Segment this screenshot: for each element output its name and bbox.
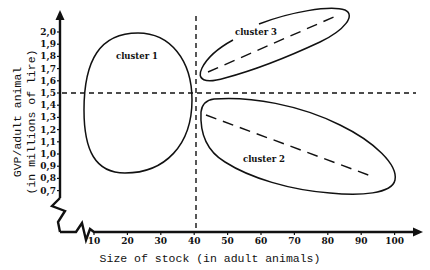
- x-tick-label: 10: [88, 236, 101, 246]
- cluster-3: cluster 3: [200, 8, 349, 80]
- y-tick-label: 1,2: [40, 125, 56, 136]
- y-axis-arrow-icon: [56, 10, 65, 20]
- y-ticks: 0,70,80,91,01,11,21,31,41,51,61,71,81,92…: [40, 27, 60, 197]
- cluster-1: cluster 1: [84, 33, 192, 173]
- x-ticks: 102030405060708090100: [88, 232, 404, 246]
- cluster-2-label: cluster 2: [243, 154, 285, 164]
- y-tick-label: 1,7: [40, 64, 56, 75]
- y-axis-title: GVP/adult animal: [11, 67, 24, 178]
- y-tick-label: 0,8: [40, 173, 56, 184]
- y-tick-label: 1,5: [40, 88, 56, 99]
- y-tick-label: 1,4: [40, 100, 56, 111]
- y-tick-label: 2,0: [40, 27, 56, 38]
- x-axis-title: Size of stock (in adult animals): [100, 252, 321, 265]
- y-axis-subtitle: (in millions of lire): [25, 50, 38, 195]
- y-tick-label: 1,6: [40, 76, 56, 87]
- y-tick-label: 1,1: [40, 137, 56, 148]
- chart-canvas: 0,70,80,91,01,11,21,31,41,51,61,71,81,92…: [0, 0, 430, 270]
- y-axis-break-icon: [52, 198, 65, 232]
- y-tick-label: 0,9: [40, 161, 56, 172]
- x-tick-label: 70: [288, 236, 301, 246]
- x-tick-label: 30: [155, 236, 168, 246]
- x-tick-label: 40: [188, 236, 201, 246]
- y-tick-label: 1,3: [40, 112, 56, 123]
- cluster-3-label: cluster 3: [235, 27, 277, 37]
- y-tick-label: 1,0: [40, 149, 56, 160]
- cluster-1-label: cluster 1: [116, 51, 158, 61]
- x-tick-label: 50: [221, 236, 234, 246]
- x-tick-label: 100: [385, 236, 404, 246]
- x-tick-label: 80: [322, 236, 335, 246]
- x-axis: [60, 223, 423, 240]
- y-tick-label: 1,8: [40, 51, 56, 62]
- cluster-2-outline: [201, 98, 395, 194]
- x-tick-label: 20: [121, 236, 134, 246]
- x-axis-arrow-icon: [413, 228, 423, 237]
- x-tick-label: 90: [355, 236, 368, 246]
- cluster-2: cluster 2: [201, 98, 395, 194]
- y-tick-label: 0,7: [40, 186, 56, 197]
- y-tick-label: 1,9: [40, 39, 56, 50]
- x-tick-label: 60: [255, 236, 268, 246]
- cluster-2-trend-line: [206, 115, 371, 176]
